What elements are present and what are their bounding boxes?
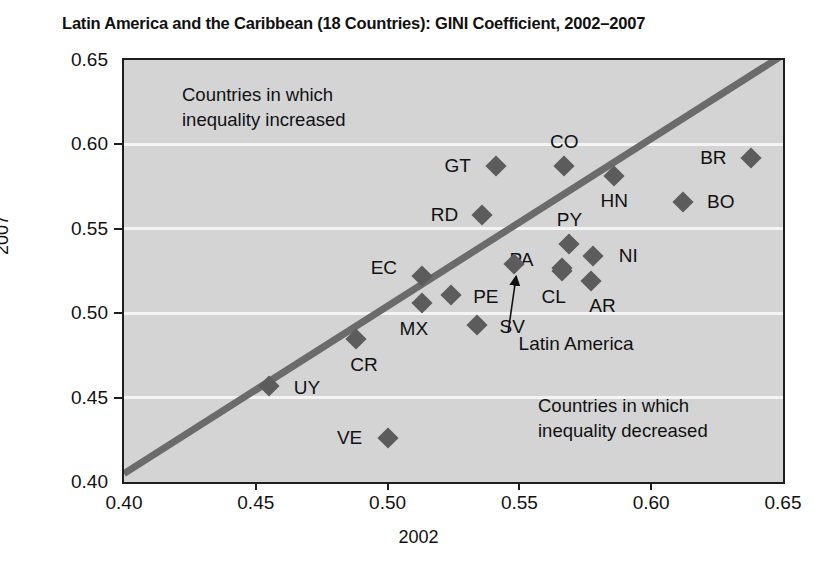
y-tick-mark: [114, 397, 122, 399]
point-label-latin-america: Latin America: [519, 333, 634, 355]
x-tick-label: 0.65: [748, 492, 818, 514]
x-tick-label: 0.45: [221, 492, 291, 514]
annotation-inequality-decreased: Countries in which inequality decreased: [538, 393, 708, 443]
y-tick-mark: [114, 228, 122, 230]
point-label-uy: UY: [294, 377, 320, 399]
point-label-cr: CR: [350, 354, 377, 376]
x-tick-label: 0.55: [484, 492, 554, 514]
point-label-rd: RD: [431, 204, 458, 226]
point-label-bo: BO: [707, 191, 734, 213]
point-label-co: CO: [550, 131, 579, 153]
x-axis-label: 2002: [0, 527, 837, 548]
chart-canvas: Latin America and the Caribbean (18 Coun…: [0, 0, 837, 567]
point-label-hn: HN: [601, 190, 628, 212]
chart-title: Latin America and the Caribbean (18 Coun…: [62, 14, 645, 33]
point-label-pe: PE: [473, 286, 498, 308]
annotation-inequality-increased: Countries in which inequality increased: [182, 82, 346, 132]
point-label-cl: CL: [541, 286, 565, 308]
y-tick-label: 0.45: [48, 387, 108, 409]
plot-area: GTCOBRHNBORDPYNIPAARCLECPEMXSVCRUYVELati…: [122, 58, 785, 484]
point-label-ni: NI: [619, 245, 638, 267]
x-tick-label: 0.60: [616, 492, 686, 514]
annotation-upper-line2: inequality increased: [182, 107, 346, 132]
annotation-upper-line1: Countries in which: [182, 82, 346, 107]
y-axis-label: 2007: [0, 215, 13, 255]
point-label-ec: EC: [371, 257, 397, 279]
y-tick-label: 0.65: [48, 49, 108, 71]
y-tick-label: 0.60: [48, 133, 108, 155]
point-label-ve: VE: [337, 427, 362, 449]
point-label-mx: MX: [400, 318, 429, 340]
point-label-br: BR: [700, 147, 726, 169]
point-label-py: PY: [557, 209, 582, 231]
y-tick-mark: [114, 312, 122, 314]
point-label-gt: GT: [444, 155, 470, 177]
annotation-lower-line2: inequality decreased: [538, 418, 708, 443]
y-tick-label: 0.40: [48, 471, 108, 493]
annotation-lower-line1: Countries in which: [538, 393, 708, 418]
x-tick-label: 0.40: [89, 492, 159, 514]
y-tick-label: 0.50: [48, 302, 108, 324]
point-label-ar: AR: [589, 295, 615, 317]
y-tick-mark: [114, 143, 122, 145]
x-tick-label: 0.50: [353, 492, 423, 514]
y-tick-label: 0.55: [48, 218, 108, 240]
